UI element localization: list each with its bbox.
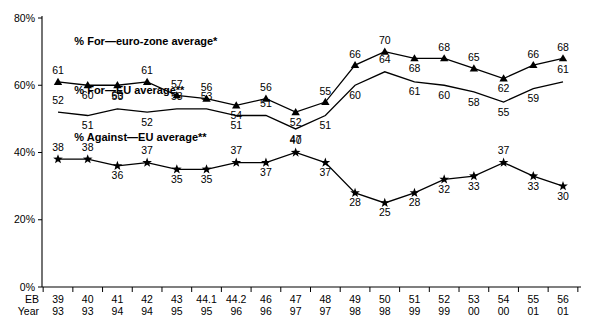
data-point-value-label: 37 [260, 166, 272, 178]
data-point-value-label: 62 [498, 82, 510, 94]
x-axis-tick-label: 94 [112, 305, 124, 317]
x-axis-row-label: EB [25, 293, 39, 305]
x-axis-tick-label: 00 [498, 305, 510, 317]
x-axis-tick-label: 42 [141, 293, 153, 305]
data-point-marker-triangle [351, 61, 359, 68]
x-axis-tick-label: 95 [201, 305, 213, 317]
series-annotation-1: % For—euro-zone average* [74, 35, 218, 47]
x-axis-tick-label: 43 [171, 293, 183, 305]
data-point-marker-star [231, 157, 241, 166]
x-axis-tick-label: 00 [468, 305, 480, 317]
x-axis-tick-label: 97 [290, 305, 302, 317]
data-point-value-label: 28 [409, 196, 421, 208]
data-point-value-label: 56 [260, 81, 272, 93]
x-axis-tick-label: 50 [379, 293, 391, 305]
series-annotation-2: % For—EU average** [74, 84, 185, 96]
data-point-value-label: 35 [171, 173, 183, 185]
data-point-value-label: 51 [230, 119, 242, 131]
data-point-marker-star [291, 147, 301, 156]
x-axis-tick-label: 97 [320, 305, 332, 317]
data-point-value-label: 58 [468, 96, 480, 108]
data-point-value-label: 68 [438, 41, 450, 53]
x-axis-tick-label: 49 [349, 293, 361, 305]
data-point-value-label: 61 [557, 63, 569, 75]
data-point-marker-triangle [54, 78, 62, 85]
x-axis-tick-label: 99 [409, 305, 421, 317]
data-point-marker-star [83, 154, 93, 163]
y-tick-label: 60% [14, 79, 35, 91]
y-tick-label: 0% [20, 281, 35, 293]
series-annotation-3: % Against—EU average** [74, 131, 207, 143]
x-axis-tick-label: 98 [349, 305, 361, 317]
data-point-value-label: 51 [320, 119, 332, 131]
x-axis-tick-label: 44.1 [196, 293, 217, 305]
y-tick-label: 40% [14, 146, 35, 158]
data-point-value-label: 32 [438, 183, 450, 195]
x-axis-tick-label: 53 [468, 293, 480, 305]
x-axis-tick-label: 39 [52, 293, 64, 305]
x-axis-tick-label: 46 [260, 293, 272, 305]
data-point-value-label: 65 [468, 51, 480, 63]
data-point-marker-star [142, 157, 152, 166]
x-axis-tick-label: 54 [498, 293, 510, 305]
data-point-value-label: 40 [290, 134, 302, 146]
data-point-value-label: 64 [379, 53, 391, 65]
data-point-value-label: 33 [468, 180, 480, 192]
data-point-value-label: 33 [527, 180, 539, 192]
chart-figure: 0%20%40%60%80%EB394041424344.144.2464748… [0, 0, 589, 334]
data-point-value-label: 37 [230, 144, 242, 156]
x-axis-tick-label: 99 [438, 305, 450, 317]
x-axis-tick-label: 96 [230, 305, 242, 317]
data-point-value-label: 37 [320, 166, 332, 178]
data-point-value-label: 68 [557, 41, 569, 53]
x-axis-tick-label: 01 [527, 305, 539, 317]
data-point-value-label: 66 [527, 48, 539, 60]
data-point-value-label: 70 [379, 34, 391, 46]
data-point-value-label: 38 [52, 141, 64, 153]
data-point-value-label: 61 [141, 64, 153, 76]
x-axis-tick-label: 56 [557, 293, 569, 305]
data-point-value-label: 61 [409, 85, 421, 97]
series-line-2 [58, 72, 563, 129]
x-axis-tick-label: 55 [527, 293, 539, 305]
y-tick-label: 20% [14, 213, 35, 225]
x-axis-tick-label: 98 [379, 305, 391, 317]
data-point-value-label: 25 [379, 206, 391, 218]
data-point-marker-triangle [559, 54, 567, 61]
data-point-value-label: 55 [498, 106, 510, 118]
data-point-value-label: 28 [349, 196, 361, 208]
x-axis-tick-label: 95 [171, 305, 183, 317]
x-axis-tick-label: 40 [82, 293, 94, 305]
data-point-value-label: 35 [201, 173, 213, 185]
data-point-value-label: 51 [82, 119, 94, 131]
x-axis-tick-label: 47 [290, 293, 302, 305]
data-point-value-label: 59 [527, 92, 539, 104]
x-axis-tick-label: 93 [52, 305, 64, 317]
series-line-1 [58, 52, 563, 113]
x-axis-tick-label: 96 [260, 305, 272, 317]
x-axis-tick-label: 52 [438, 293, 450, 305]
data-point-value-label: 60 [349, 89, 361, 101]
data-point-value-label: 66 [349, 48, 361, 60]
data-point-value-label: 55 [320, 85, 332, 97]
x-axis-tick-label: 01 [557, 305, 569, 317]
data-point-value-label: 30 [557, 190, 569, 202]
x-axis-tick-label: 93 [82, 305, 94, 317]
data-point-value-label: 36 [112, 169, 124, 181]
data-point-value-label: 68 [409, 62, 421, 74]
data-point-value-label: 37 [498, 144, 510, 156]
x-axis-tick-label: 41 [112, 293, 124, 305]
line-chart-canvas: 0%20%40%60%80%EB394041424344.144.2464748… [0, 0, 589, 334]
data-point-value-label: 37 [141, 144, 153, 156]
data-point-value-label: 52 [141, 116, 153, 128]
series-line-3 [58, 153, 563, 203]
x-axis-row-label: Year [18, 305, 40, 317]
data-point-value-label: 52 [52, 94, 64, 106]
y-tick-label: 80% [14, 12, 35, 24]
data-point-value-label: 60 [438, 89, 450, 101]
data-point-marker-star [53, 154, 63, 163]
data-point-marker-star [499, 157, 509, 166]
data-point-value-label: 51 [260, 97, 272, 109]
data-point-value-label: 53 [201, 90, 213, 102]
x-axis-tick-label: 44.2 [226, 293, 247, 305]
